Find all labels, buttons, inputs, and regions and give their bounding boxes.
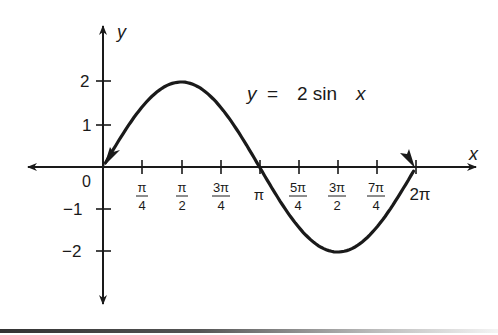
svg-text:2: 2 — [178, 198, 185, 213]
y-tick-label-neg2: −2 — [62, 242, 81, 261]
svg-text:4: 4 — [294, 198, 301, 213]
svg-text:π: π — [254, 186, 264, 203]
svg-text:4: 4 — [138, 198, 145, 213]
svg-text:7π: 7π — [368, 180, 384, 195]
y-tick-label-2: 2 — [80, 72, 89, 91]
svg-text:2 sin: 2 sin — [297, 83, 337, 104]
origin-label: 0 — [82, 173, 91, 190]
y-axis-label: y — [115, 22, 127, 42]
y-tick-label-neg1: −1 — [63, 200, 82, 219]
svg-text:2: 2 — [333, 198, 340, 213]
svg-text:5π: 5π — [290, 180, 306, 195]
svg-text:=: = — [267, 83, 278, 104]
svg-text:x: x — [355, 83, 367, 104]
x-axis-label: x — [468, 144, 479, 164]
equation-annotation: y = 2 sin x — [245, 83, 367, 104]
y-tick-label-1: 1 — [82, 116, 91, 135]
svg-text:2π: 2π — [409, 185, 430, 204]
curve-end-arrow — [400, 149, 415, 168]
svg-text:3π: 3π — [329, 180, 345, 195]
svg-text:3π: 3π — [213, 180, 229, 195]
svg-text:π: π — [178, 180, 187, 195]
bottom-rule — [0, 329, 498, 333]
sine-chart: y x 0 2 1 −1 −2 π 4 π 2 3π 4 π 5π 4 3π 2… — [0, 0, 498, 335]
svg-text:π: π — [138, 180, 147, 195]
svg-text:4: 4 — [217, 198, 224, 213]
svg-text:4: 4 — [372, 198, 379, 213]
svg-text:y: y — [245, 83, 258, 104]
